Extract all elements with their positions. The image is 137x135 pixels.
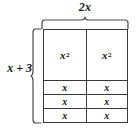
tile-x: x (86, 109, 128, 122)
tile-row-x-squared: x2 x2 (44, 30, 127, 80)
tile-x: x (86, 81, 128, 94)
tile-label-base: x (62, 110, 67, 121)
tile-x-squared: x2 (86, 30, 128, 80)
tile-label-base: x (104, 110, 109, 121)
left-brace-icon (30, 28, 42, 124)
tile-x: x (44, 109, 86, 122)
tile-label-base: x (104, 96, 109, 107)
tile-grid: x2 x2 x x x x x (43, 29, 128, 123)
tile-label-base: x (62, 96, 67, 107)
tile-x: x (44, 95, 86, 108)
left-dimension-text: x + 3 (7, 61, 32, 75)
tile-row-x: x x (44, 80, 127, 94)
left-dimension-label: x + 3 (2, 62, 32, 75)
tile-x-squared: x2 (44, 30, 86, 80)
tile-label-base: x (104, 82, 109, 93)
top-dimension-text: 2x (79, 0, 91, 14)
top-brace-icon (41, 15, 129, 28)
tile-label-base: x (62, 82, 67, 93)
top-dimension-label: 2x (42, 1, 128, 14)
tile-label-exponent: 2 (108, 51, 112, 59)
tile-label-base: x (102, 49, 108, 61)
area-model-diagram: 2x x + 3 x2 x2 x (0, 0, 137, 135)
tile-label-base: x (60, 49, 66, 61)
tile-row-x: x x (44, 94, 127, 108)
tile-x: x (86, 95, 128, 108)
tile-x: x (44, 81, 86, 94)
tile-row-x: x x (44, 108, 127, 122)
tile-label-exponent: 2 (66, 51, 70, 59)
